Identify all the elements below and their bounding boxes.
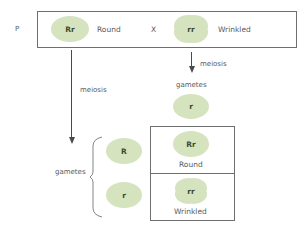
left-gametes-label: gametes xyxy=(55,168,86,176)
right-meiosis-label: meiosis xyxy=(200,60,227,68)
parent2-phenotype: Wrinkled xyxy=(218,25,251,34)
offspring1-phenotype: Round xyxy=(179,160,203,169)
offspring1-cell-round: Rr xyxy=(173,131,209,157)
offspring2-genotype: rr xyxy=(187,187,194,196)
left-meiosis-label: meiosis xyxy=(80,86,107,94)
parent2-genotype: rr xyxy=(187,25,194,34)
generation-label-p: P xyxy=(15,25,19,33)
parent1-phenotype: Round xyxy=(97,25,121,34)
left-gamete-allele-R: R xyxy=(121,147,127,156)
gametes-bracket-icon xyxy=(88,136,104,218)
right-gamete-cell: r xyxy=(173,94,209,119)
offspring1-genotype: Rr xyxy=(186,140,195,149)
left-meiosis-arrowhead-icon xyxy=(69,137,75,144)
offspring2-cell-wrinkled: rr xyxy=(177,180,205,202)
parent2-cell-wrinkled: rr xyxy=(176,17,206,41)
parent1-genotype: Rr xyxy=(65,25,74,34)
left-gamete-cell-r: r xyxy=(106,182,142,208)
cross-symbol: X xyxy=(151,25,156,34)
right-gamete-allele: r xyxy=(189,102,193,111)
right-gametes-label: gametes xyxy=(176,81,207,89)
left-meiosis-arrow-shaft xyxy=(71,50,72,138)
parent1-cell-round: Rr xyxy=(51,16,89,42)
right-meiosis-arrowhead-icon xyxy=(189,66,195,73)
left-gamete-allele-r: r xyxy=(122,191,126,200)
offspring2-phenotype: Wrinkled xyxy=(174,207,207,216)
left-gamete-cell-R: R xyxy=(106,138,142,164)
